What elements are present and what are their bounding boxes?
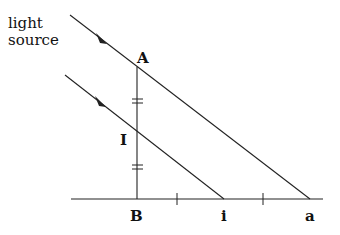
upper-ray-arrow-icon (96, 33, 107, 44)
point-label-I: I (120, 131, 127, 149)
point-label-B: B (130, 207, 143, 225)
point-label-i: i (221, 207, 227, 225)
point-label-A: A (136, 49, 149, 67)
lower-ray (65, 75, 224, 199)
point-label-a: a (305, 207, 315, 225)
pinhole-diagram: light source A I B i a (0, 0, 340, 235)
lower-ray-arrow-icon (95, 96, 106, 107)
light-source-label-line2: source (8, 31, 59, 49)
light-source-label-line1: light (8, 14, 43, 32)
